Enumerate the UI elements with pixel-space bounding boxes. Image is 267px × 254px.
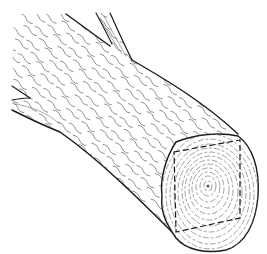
log-illustration: Line-art illustration of a round log wit… [0, 0, 267, 254]
branch-stub-top [66, 13, 132, 60]
branch-stub-left [12, 86, 60, 124]
log-drawing [0, 0, 267, 254]
